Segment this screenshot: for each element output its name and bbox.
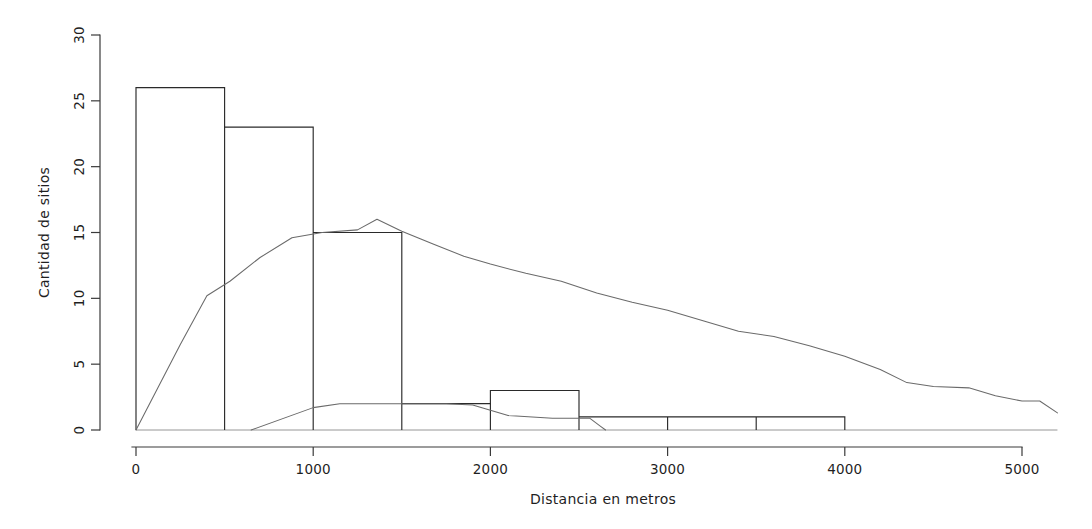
y-axis-ticks bbox=[91, 35, 100, 430]
chart-canvas: 051015202530 Cantidad de sitios 01000200… bbox=[0, 0, 1092, 529]
y-tick-label-20: 20 bbox=[71, 158, 87, 176]
x-axis-title: Distancia en metros bbox=[530, 491, 676, 507]
y-tick-label-25: 25 bbox=[71, 92, 87, 110]
histogram-bars bbox=[136, 88, 845, 430]
y-tick-label-0: 0 bbox=[71, 426, 87, 435]
y-axis: 051015202530 Cantidad de sitios bbox=[36, 26, 100, 434]
x-tick-label-3000: 3000 bbox=[650, 461, 685, 477]
y-tick-label-30: 30 bbox=[71, 26, 87, 44]
y-tick-label-15: 15 bbox=[71, 224, 87, 242]
histogram-chart: 051015202530 Cantidad de sitios 01000200… bbox=[0, 0, 1092, 529]
y-axis-tick-labels: 051015202530 bbox=[71, 26, 87, 434]
x-tick-label-0: 0 bbox=[132, 461, 141, 477]
x-axis-ticks bbox=[136, 447, 1022, 456]
x-tick-label-5000: 5000 bbox=[1004, 461, 1039, 477]
x-tick-label-1000: 1000 bbox=[296, 461, 331, 477]
x-axis-tick-labels: 010002000300040005000 bbox=[132, 461, 1040, 477]
x-tick-label-2000: 2000 bbox=[473, 461, 508, 477]
plot-area bbox=[136, 88, 1057, 430]
y-tick-label-5: 5 bbox=[71, 360, 87, 369]
primary-frequency-curve bbox=[136, 219, 1057, 430]
y-axis-title: Cantidad de sitios bbox=[36, 167, 52, 298]
y-tick-label-10: 10 bbox=[71, 290, 87, 308]
x-tick-label-4000: 4000 bbox=[827, 461, 862, 477]
secondary-frequency-curve bbox=[251, 404, 605, 430]
x-axis: 010002000300040005000 Distancia en metro… bbox=[132, 447, 1040, 507]
